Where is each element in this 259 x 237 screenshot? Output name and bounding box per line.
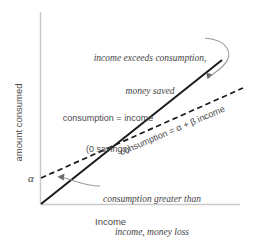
alpha-intercept-label: α [28,172,34,185]
annotation-money-loss-line2: income, money loss [100,227,204,237]
economics-consumption-chart: amount consumed Income income exceeds co… [0,0,259,237]
annotation-money-saved-line1: income exceeds consumption, [88,53,212,64]
annotation-consumption-equals-income-line1: consumption = income [56,113,160,123]
annotation-money-loss-line1: consumption greater than [100,194,204,205]
annotation-consumption-equals-income: consumption = income (0 savings) [56,92,160,175]
y-axis-label: amount consumed [14,62,25,182]
annotation-money-loss: consumption greater than income, money l… [100,172,204,237]
